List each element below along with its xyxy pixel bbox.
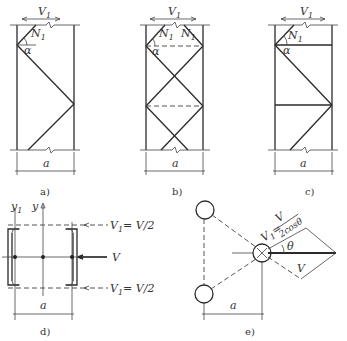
width-label-a: a xyxy=(230,299,237,312)
force-label-v1: V1 xyxy=(168,5,181,20)
caption-d: d) xyxy=(40,326,50,337)
force-label-v1: V1 xyxy=(38,5,51,20)
panel-d: y y1 V1= V/2 V V1= V/2 a d) xyxy=(2,200,154,337)
angle-alpha: α xyxy=(24,44,32,57)
width-label-a: a xyxy=(43,157,50,170)
panel-c: V1 N1 α a c) xyxy=(268,5,338,197)
caption-b: b) xyxy=(172,186,182,197)
caption-c: c) xyxy=(305,186,315,197)
diag-label-n1: N1 xyxy=(287,29,303,44)
caption-a: a) xyxy=(40,186,50,197)
panel-b: V1 N1 N1 α a b) xyxy=(140,5,210,197)
diag-label-n1-right: N1 xyxy=(180,27,196,42)
width-label-a: a xyxy=(300,157,307,170)
force-mid-label: V xyxy=(112,251,121,264)
axis-y1-label: y1 xyxy=(10,200,22,215)
angle-alpha: α xyxy=(152,45,160,58)
axis-y-label: y xyxy=(31,200,39,213)
angle-alpha: α xyxy=(283,44,291,57)
caption-e: e) xyxy=(245,326,255,337)
force-equation-v1: V1= V 2cosθ xyxy=(254,202,305,248)
force-label-v1: V1 xyxy=(300,5,313,20)
force-main-v: V xyxy=(297,262,306,275)
force-top-label: V1= V/2 xyxy=(110,219,154,234)
force-bot-label: V1= V/2 xyxy=(110,282,154,297)
lacing-diagram: V1 N1 α a a) V1 N1 N1 α a b) xyxy=(0,0,347,341)
panel-e: θ V V1= V 2cosθ a e) xyxy=(195,201,336,337)
diag-label-n1-left: N1 xyxy=(158,27,174,42)
angle-theta: θ xyxy=(287,240,294,253)
width-label-a: a xyxy=(40,299,47,312)
diag-label-n1: N1 xyxy=(30,27,46,42)
width-label-a: a xyxy=(172,157,179,170)
panel-a: V1 N1 α a a) xyxy=(10,5,80,197)
